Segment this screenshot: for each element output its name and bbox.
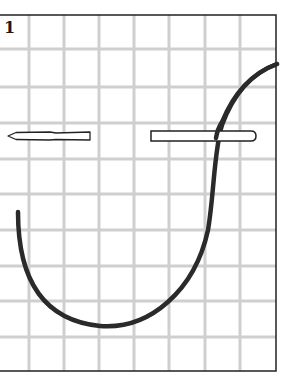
left-needle-icon: [8, 132, 90, 140]
graph-paper-grid: [0, 15, 276, 371]
stitch-diagram: 1: [0, 0, 283, 383]
step-number-label: 1: [4, 18, 15, 37]
right-needle-icon: [151, 131, 256, 141]
thread-over-needle: [216, 64, 277, 138]
diagram-canvas: [0, 0, 283, 383]
